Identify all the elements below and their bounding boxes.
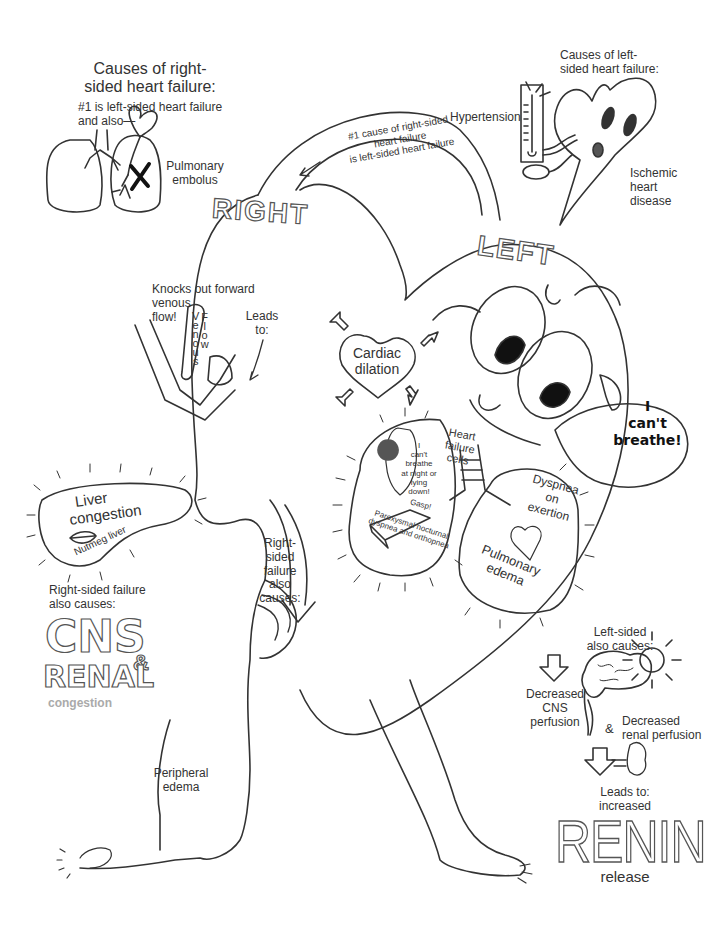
blocked-x-icon [131,164,149,189]
expand-arrow-icon [330,312,348,330]
decreased-renal-perfusion-label: Decreased renal perfusion [622,715,701,743]
renin-label: RENIN [555,808,706,877]
right-heart-label: RIGHT [211,193,310,232]
kidney-icon [612,743,646,775]
down-arrow-icon [585,748,615,775]
peripheral-edema-label: Peripheral edema [146,767,216,795]
heart-face [433,274,621,445]
down-arrow-icon [540,655,568,681]
pulmonary-embolus-label: Pulmonary embolus [160,160,230,188]
release-label: release [585,868,665,885]
expand-arrow-icon [336,389,353,406]
left-also-caption: Left-sided also causes: [570,626,670,654]
cns-label: CNS [45,612,146,663]
cant-breathe-speech: I can't breathe! [610,398,685,448]
ischemic-heart-disease-label: Ischemic heart disease [630,167,677,208]
heart-failure-cells-label: Heart failure cells [437,425,483,469]
flow-word: Flow [198,311,211,347]
left-leg [370,680,525,876]
renal-label: RENAL [43,660,154,695]
right-sided-arrow-label: Right- sided failure also causes: [255,537,305,606]
congestion-label: congestion [48,697,112,711]
expand-arrow-icon [421,332,438,346]
pnd-bubble-text: I can't breathe at night or lying down! [398,441,440,496]
blood-pressure-gauge-icon [521,82,577,179]
leads-to-label: Leads to: [242,310,282,338]
right-causes-subtitle: #1 is left-sided heart failure and also— [78,101,222,129]
right-also-caption: Right-sided failure also causes: [49,584,146,612]
left-causes-title: Causes of left- sided heart failure: [560,49,659,77]
left-also-ampersand: & [605,722,614,737]
cardiac-dilation-label: Cardiac dilation [342,345,412,377]
expand-arrow-icon [406,386,418,405]
decreased-cns-perfusion-label: Decreased CNS perfusion [520,688,590,729]
right-causes-title: Causes of right- sided heart failure: [70,60,230,97]
